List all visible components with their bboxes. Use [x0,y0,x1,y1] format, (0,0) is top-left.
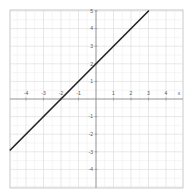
x-tick-label: -3 [41,90,46,96]
y-tick-label: -4 [89,166,94,172]
y-tick-label: -2 [89,131,94,137]
x-tick-label: -1 [76,90,81,96]
y-tick-label: -1 [89,113,94,119]
coordinate-plane: -4-3-2-11234 54321-1-2-3-4 x [0,0,189,194]
y-tick-label: 5 [90,8,93,14]
x-tick-label: 4 [165,90,168,96]
y-tick-label: -3 [89,149,94,155]
x-tick-label: -2 [59,90,64,96]
y-tick-label: 2 [90,61,93,67]
x-tick-label: 1 [112,90,115,96]
x-tick-label: -4 [24,90,29,96]
y-tick-label: 3 [90,43,93,49]
x-tick-label: 3 [147,90,150,96]
x-tick-label: 2 [130,90,133,96]
y-tick-label: 4 [90,25,93,31]
y-tick-label: 1 [90,78,93,84]
